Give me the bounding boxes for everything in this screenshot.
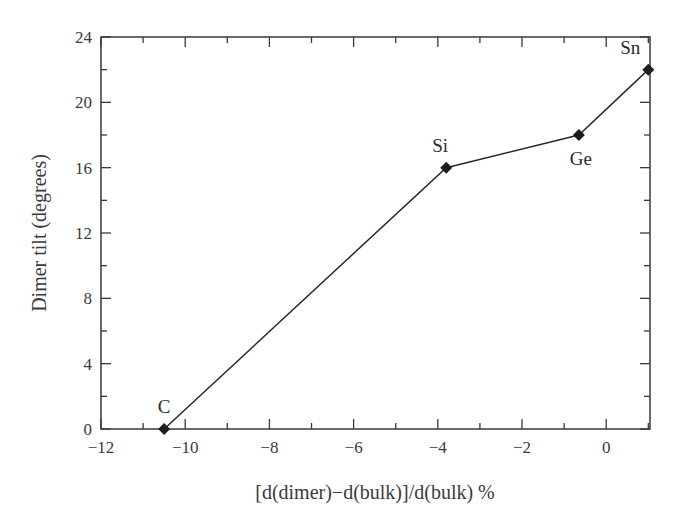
point-labels: CSiGeSn [158, 37, 641, 417]
point-label-c: C [158, 396, 171, 417]
y-axis-title: Dimer tilt (degrees) [28, 154, 51, 312]
x-tick-label: −10 [172, 438, 199, 457]
y-tick-label: 16 [75, 159, 92, 178]
y-tick-labels: 04812162024 [75, 28, 93, 439]
chart: −12−10−8−6−4−20 04812162024 CSiGeSn [d(d… [0, 0, 682, 522]
x-tick-label: −8 [260, 438, 278, 457]
y-tick-label: 4 [84, 355, 93, 374]
data-markers [158, 64, 654, 435]
x-axis-title: [d(dimer)−d(bulk)]/d(bulk) % [255, 481, 495, 504]
point-label-sn: Sn [620, 37, 641, 58]
y-tick-label: 12 [75, 224, 92, 243]
point-label-si: Si [432, 135, 448, 156]
x-tick-label: −4 [429, 438, 448, 457]
x-tick-label: −12 [88, 438, 115, 457]
x-tick-label: −6 [345, 438, 363, 457]
x-tick-labels: −12−10−8−6−4−20 [88, 438, 611, 457]
x-tick-label: −2 [513, 438, 531, 457]
series-line [164, 70, 648, 429]
point-label-ge: Ge [570, 148, 592, 169]
y-tick-label: 24 [75, 28, 93, 47]
y-tick-label: 0 [84, 420, 93, 439]
y-tick-label: 8 [84, 289, 93, 308]
y-tick-label: 20 [75, 93, 92, 112]
x-tick-label: 0 [602, 438, 611, 457]
